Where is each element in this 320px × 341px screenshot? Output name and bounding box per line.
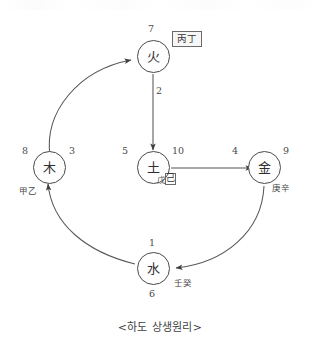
node-earth-stem-part1: 戊 bbox=[157, 176, 166, 185]
edge-wood-to-fire bbox=[49, 60, 131, 156]
node-metal[interactable]: 金 bbox=[248, 151, 281, 184]
node-wood-number-right: 3 bbox=[69, 146, 75, 156]
edge-water-to-wood bbox=[48, 184, 135, 264]
node-fire-number-top: 7 bbox=[148, 24, 154, 34]
node-wood-stem-label: 甲乙 bbox=[19, 187, 37, 196]
node-earth-number-right: 10 bbox=[172, 146, 184, 156]
edge-metal-to-water bbox=[176, 186, 264, 268]
node-wood[interactable]: 木 bbox=[33, 151, 66, 184]
node-fire[interactable]: 火 bbox=[137, 40, 170, 73]
node-metal-glyph: 金 bbox=[258, 161, 271, 174]
node-metal-stem-label: 庚辛 bbox=[272, 184, 290, 193]
node-water-number-top: 1 bbox=[149, 238, 155, 248]
node-fire-stem-box: 丙丁 bbox=[172, 31, 202, 47]
node-fire-stem-label: 丙丁 bbox=[177, 34, 196, 44]
node-metal-number-right: 9 bbox=[283, 146, 289, 156]
diagram-caption: <하도 상생원리> bbox=[0, 318, 320, 334]
node-earth-stem-box: 戊 己 bbox=[157, 173, 176, 185]
node-water-stem-label: 壬癸 bbox=[174, 279, 192, 288]
node-fire-glyph: 火 bbox=[147, 50, 160, 63]
node-water-number-bottom: 6 bbox=[149, 289, 155, 299]
node-earth-number-left: 5 bbox=[122, 146, 128, 156]
node-water[interactable]: 水 bbox=[137, 252, 170, 285]
edge-fire-to-earth-label: 2 bbox=[156, 86, 162, 96]
node-earth-stem-part2: 己 bbox=[165, 173, 176, 185]
node-wood-glyph: 木 bbox=[43, 161, 56, 174]
node-water-glyph: 水 bbox=[147, 262, 160, 275]
node-wood-number-left: 8 bbox=[22, 146, 28, 156]
hado-diagram: 火 7 丙丁 2 木 8 3 甲乙 土 5 10 戊 己 金 4 9 庚辛 水 … bbox=[0, 0, 320, 341]
node-metal-number-left: 4 bbox=[232, 146, 238, 156]
